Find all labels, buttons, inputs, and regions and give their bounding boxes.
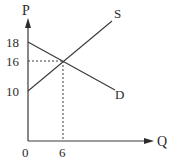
demand-curve xyxy=(28,42,115,90)
x-tick-6: 6 xyxy=(59,145,66,160)
origin-label: 0 xyxy=(22,145,29,160)
demand-label: D xyxy=(115,87,124,102)
y-axis-arrow-icon xyxy=(25,18,31,28)
supply-demand-diagram: P Q 0 18 16 10 6 S D xyxy=(0,0,179,167)
supply-label: S xyxy=(114,6,121,21)
y-axis-label: P xyxy=(22,3,30,18)
supply-curve xyxy=(28,21,112,91)
x-axis-arrow-icon xyxy=(144,138,154,144)
y-tick-18: 18 xyxy=(6,35,19,50)
y-tick-10: 10 xyxy=(6,84,19,99)
y-tick-16: 16 xyxy=(6,54,20,69)
x-axis-label: Q xyxy=(157,134,167,149)
